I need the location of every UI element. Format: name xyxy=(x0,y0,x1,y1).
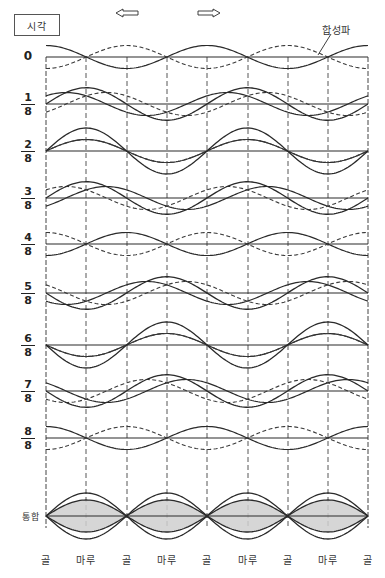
merge-label: 통합 xyxy=(22,510,40,523)
row-label-2: 28 xyxy=(18,139,38,164)
row-label-8: 88 xyxy=(18,426,38,451)
numerator: 6 xyxy=(21,333,35,346)
direction-arrows xyxy=(116,9,220,17)
row-label-6: 68 xyxy=(18,333,38,358)
antinode-label: 마루 xyxy=(238,552,258,567)
row-label-3: 38 xyxy=(18,186,38,211)
node-label: 골 xyxy=(283,552,293,567)
title-text: 시각 xyxy=(27,18,47,33)
numerator: 2 xyxy=(21,139,35,152)
denominator: 8 xyxy=(18,105,38,117)
numerator: 4 xyxy=(21,232,35,245)
denominator: 8 xyxy=(18,245,38,257)
title-box: 시각 xyxy=(14,14,60,36)
antinode-label: 마루 xyxy=(76,552,96,567)
numerator: 1 xyxy=(21,92,35,105)
denominator: 8 xyxy=(18,294,38,306)
antinode-label: 마루 xyxy=(157,552,177,567)
numerator: 7 xyxy=(21,379,35,392)
denominator: 8 xyxy=(18,346,38,358)
denominator: 8 xyxy=(18,152,38,164)
numerator: 3 xyxy=(21,186,35,199)
composite-wave-label: 합성파 xyxy=(322,22,351,37)
numerator: 8 xyxy=(21,426,35,439)
arrow-right-icon xyxy=(198,9,220,17)
standing-wave-diagram xyxy=(0,0,385,578)
arrow-left-icon xyxy=(116,9,138,17)
node-label: 골 xyxy=(41,552,51,567)
denominator: 8 xyxy=(18,392,38,404)
denominator: 8 xyxy=(18,439,38,451)
denominator: 8 xyxy=(18,199,38,211)
row-label-7: 78 xyxy=(18,379,38,404)
numerator: 5 xyxy=(21,281,35,294)
node-label: 골 xyxy=(202,552,212,567)
antinode-label: 마루 xyxy=(318,552,338,567)
row-label-4: 48 xyxy=(18,232,38,257)
wave-row-2 xyxy=(46,128,368,174)
row-label-1: 18 xyxy=(18,92,38,117)
row-label-0: 0 xyxy=(18,51,38,62)
row-label-5: 58 xyxy=(18,281,38,306)
node-label: 골 xyxy=(363,552,373,567)
node-label: 골 xyxy=(122,552,132,567)
composite-label-pointer xyxy=(318,34,331,55)
